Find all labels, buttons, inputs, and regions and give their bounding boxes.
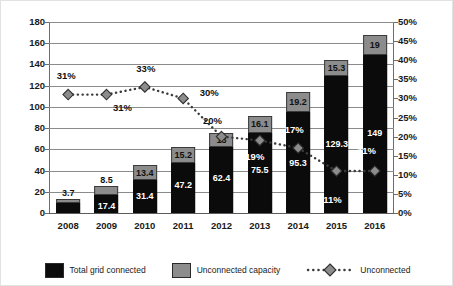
total-grid-connected-segment[interactable]: 47.2 <box>171 163 195 213</box>
bar-group-2013[interactable]: 16.175.5 <box>241 22 279 213</box>
left-axis-tick-label: 160 <box>29 38 45 48</box>
stacked-bar[interactable]: 8.517.4 <box>95 186 119 213</box>
left-axis-tick-label: 180 <box>29 17 45 27</box>
right-axis-tick <box>394 60 398 61</box>
right-axis-tick <box>394 22 398 23</box>
total-grid-connected-segment[interactable]: 149 <box>363 55 387 213</box>
bar-group-2008[interactable]: 3.7 <box>49 22 87 213</box>
stacked-bar[interactable]: 15.3129.3 <box>325 60 349 213</box>
stacked-bar[interactable]: 13.431.4 <box>133 165 157 213</box>
bar-group-2010[interactable]: 13.431.4 <box>126 22 164 213</box>
total-grid-connected-value-label: 129.3 <box>326 140 348 149</box>
category-tick-label: 2015 <box>317 215 355 235</box>
category-tick-label: 2010 <box>126 215 164 235</box>
total-grid-connected-segment[interactable]: 95.3 <box>286 112 310 213</box>
bar-group-2016[interactable]: 19149 <box>356 22 394 213</box>
bar-group-2015[interactable]: 15.3129.3 <box>317 22 355 213</box>
left-axis-tick-label: 80 <box>34 123 45 133</box>
unconnected-capacity-value-label: 15.2 <box>172 150 194 159</box>
category-tick-label: 2016 <box>356 215 394 235</box>
chart-figure: 020406080100120140160180 0%5%10%15%20%25… <box>0 0 453 286</box>
legend-item-2[interactable]: Unconnected <box>306 263 410 277</box>
unconnected-capacity-segment[interactable]: 16.1 <box>248 116 272 133</box>
right-axis-tick <box>394 98 398 99</box>
legend-dotted-diamond-icon <box>306 263 354 277</box>
right-axis-tick-label: 25% <box>398 113 417 123</box>
bar-group-2012[interactable]: 1362.4 <box>202 22 240 213</box>
unconnected-capacity-value-label: 15.3 <box>326 63 348 72</box>
right-axis-tick <box>394 175 398 176</box>
unconnected-capacity-value-label: 19.2 <box>287 97 309 106</box>
total-grid-connected-segment[interactable]: 31.4 <box>133 180 157 213</box>
unconnected-capacity-segment[interactable]: 15.2 <box>171 147 195 163</box>
legend-swatch-black <box>45 263 64 278</box>
total-grid-connected-value-label: 17.4 <box>96 202 118 211</box>
unconnected-capacity-value-label: 16.1 <box>249 120 271 129</box>
total-grid-connected-segment[interactable]: 17.4 <box>95 195 119 213</box>
unconnected-capacity-value-label: 19 <box>364 40 386 49</box>
right-axis-tick-label: 35% <box>398 74 417 84</box>
category-tick-label: 2008 <box>49 215 87 235</box>
category-tick-label: 2012 <box>202 215 240 235</box>
right-axis-tick <box>394 118 398 119</box>
total-grid-connected-value-label: 95.3 <box>287 159 309 168</box>
stacked-bar[interactable]: 3.7 <box>56 199 80 213</box>
right-axis-tick-label: 30% <box>398 93 417 103</box>
unconnected-capacity-value-label: 8.5 <box>96 176 118 185</box>
total-grid-connected-segment[interactable]: 75.5 <box>248 133 272 213</box>
stacked-bar[interactable]: 19149 <box>363 35 387 213</box>
right-axis-tick <box>394 79 398 80</box>
legend-item-1[interactable]: Unconnected capacity <box>172 263 281 278</box>
left-axis-tick-label: 140 <box>29 59 45 69</box>
unconnected-capacity-segment[interactable]: 19 <box>363 35 387 55</box>
gridline <box>49 213 394 214</box>
left-axis-tick-label: 100 <box>29 102 45 112</box>
left-axis-tick-label: 20 <box>34 187 45 197</box>
total-grid-connected-value-label: 31.4 <box>134 192 156 201</box>
category-tick-label: 2011 <box>164 215 202 235</box>
bar-group-2011[interactable]: 15.247.2 <box>164 22 202 213</box>
right-axis-tick <box>394 41 398 42</box>
left-value-axis: 020406080100120140160180 <box>1 22 45 213</box>
stacked-bar[interactable]: 16.175.5 <box>248 116 272 213</box>
stacked-bar[interactable]: 19.295.3 <box>286 92 310 213</box>
right-axis-tick-label: 0% <box>398 208 412 218</box>
chart-legend: Total grid connectedUnconnected capacity… <box>1 259 453 281</box>
category-tick-label: 2014 <box>279 215 317 235</box>
total-grid-connected-value-label: 62.4 <box>211 174 233 183</box>
right-axis-tick <box>394 156 398 157</box>
right-axis-tick <box>394 213 398 214</box>
total-grid-connected-segment[interactable]: 129.3 <box>325 76 349 213</box>
right-axis-tick <box>394 194 398 195</box>
unconnected-capacity-segment[interactable]: 15.3 <box>325 60 349 76</box>
left-axis-tick-label: 120 <box>29 81 45 91</box>
total-grid-connected-value-label: 75.5 <box>249 166 271 175</box>
right-axis-tick-label: 20% <box>398 132 417 142</box>
plot-area: 3.78.517.413.431.415.247.21362.416.175.5… <box>49 22 394 213</box>
unconnected-capacity-segment[interactable]: 19.2 <box>286 92 310 112</box>
unconnected-capacity-segment[interactable]: 13 <box>210 133 234 147</box>
unconnected-capacity-value-label: 13 <box>211 135 233 144</box>
unconnected-capacity-segment[interactable]: 13.4 <box>133 165 157 179</box>
unconnected-capacity-value-label: 3.7 <box>57 189 79 198</box>
right-axis-tick-label: 40% <box>398 55 417 65</box>
category-tick-label: 2009 <box>87 215 125 235</box>
legend-item-0[interactable]: Total grid connected <box>45 263 146 278</box>
right-axis-tick-label: 45% <box>398 36 417 46</box>
bar-group-2009[interactable]: 8.517.4 <box>87 22 125 213</box>
right-axis-tick-label: 10% <box>398 170 417 180</box>
right-axis-tick-label: 15% <box>398 151 417 161</box>
stacked-bar[interactable]: 1362.4 <box>210 133 234 213</box>
right-axis-tick-label: 5% <box>398 189 412 199</box>
total-grid-connected-segment[interactable] <box>56 203 80 213</box>
left-axis-tick-label: 60 <box>34 144 45 154</box>
left-axis-tick-label: 40 <box>34 166 45 176</box>
legend-swatch-grey <box>172 263 191 278</box>
bar-group-2014[interactable]: 19.295.3 <box>279 22 317 213</box>
right-percent-axis: 0%5%10%15%20%25%30%35%40%45%50% <box>398 22 450 213</box>
category-axis: 200820092010201120122013201420152016 <box>49 215 394 235</box>
total-grid-connected-segment[interactable]: 62.4 <box>210 147 234 213</box>
legend-label: Unconnected capacity <box>197 265 281 275</box>
stacked-bar[interactable]: 15.247.2 <box>171 147 195 213</box>
unconnected-capacity-segment[interactable]: 8.5 <box>95 186 119 195</box>
